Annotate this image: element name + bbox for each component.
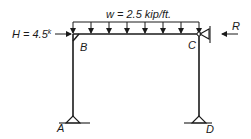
support-a-label: A: [56, 122, 64, 134]
reaction-label: R: [232, 20, 240, 32]
support-d-label: D: [206, 123, 214, 135]
distributed-load: [73, 22, 199, 33]
pin-support-d-icon: [184, 116, 212, 123]
distributed-load-label: w = 2.5 kip/ft.: [106, 8, 171, 20]
joint-c-label: C: [188, 39, 196, 51]
frame: [73, 34, 199, 116]
horizontal-load-unit: k: [48, 28, 52, 35]
horizontal-load-label: H = 4.5: [12, 28, 49, 40]
joint-b-label: B: [80, 41, 87, 53]
rigid-joint-b-icon: [73, 34, 79, 41]
svg-text:H = 4.5k: H = 4.5k: [12, 28, 52, 40]
roller-support-c-icon: [200, 26, 210, 43]
portal-frame-diagram: w = 2.5 kip/ft. H = 4.5k R B C A D: [0, 0, 251, 139]
